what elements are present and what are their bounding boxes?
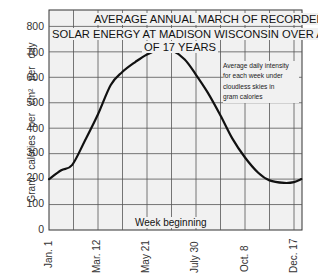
annotation-line-2: for each week under	[223, 71, 299, 81]
x-tick-mar-12: Mar. 12	[91, 240, 102, 273]
x-tick-july-30: July 30	[189, 241, 200, 273]
x-axis-title: Week beginning	[135, 217, 207, 228]
x-tick-dec-17: Dec. 17	[288, 239, 299, 273]
chart-annotation: Average daily intensity for each week un…	[223, 61, 299, 103]
y-tick-800: 800	[10, 20, 44, 32]
y-tick-0: 0	[10, 223, 44, 235]
x-tick-may-21: May 21	[140, 240, 151, 273]
chart-title-line-1: AVERAGE ANNUAL MARCH OF RECORDED	[92, 13, 318, 25]
y-axis-title: Gram calories per cm² per day	[26, 53, 37, 203]
chart-title-line-3: OF 17 YEARS	[142, 41, 218, 53]
annotation-line-3: cloudless skies in	[223, 82, 299, 92]
annotation-line-1: Average daily intensity	[223, 61, 299, 71]
chart-title-line-2: SOLAR ENERGY AT MADISON WISCONSIN OVER A…	[51, 28, 318, 40]
x-tick-oct-8: Oct. 8	[239, 245, 250, 272]
annotation-line-4: gram calories	[223, 92, 299, 102]
x-tick-jan-1: Jan. 1	[43, 241, 54, 268]
